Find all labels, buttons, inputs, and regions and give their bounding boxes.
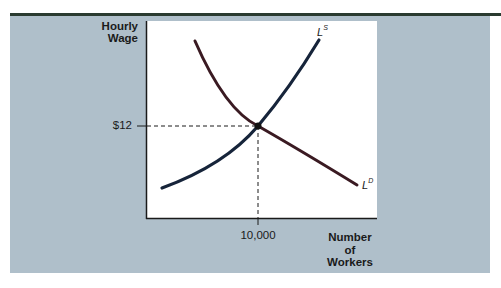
equilibrium-point [255, 123, 262, 130]
y-tick-label: $12 [100, 119, 132, 131]
x-tick-label: 10,000 [230, 229, 286, 241]
x-axis-label-line: Workers [315, 256, 385, 269]
x-axis-label: Number of Workers [315, 231, 385, 269]
x-axis-label-line: Number [315, 231, 385, 244]
demand-curve-label: LD [362, 178, 373, 191]
supply-superscript: S [323, 24, 328, 31]
demand-superscript: D [368, 177, 373, 184]
demand-curve [195, 41, 357, 185]
y-axis-label-line: Hourly [60, 20, 138, 32]
y-axis-label-line: Wage [60, 32, 138, 44]
x-axis-label-line: of [315, 244, 385, 257]
y-axis-label: Hourly Wage [60, 20, 138, 44]
supply-curve-label: LS [317, 25, 328, 38]
